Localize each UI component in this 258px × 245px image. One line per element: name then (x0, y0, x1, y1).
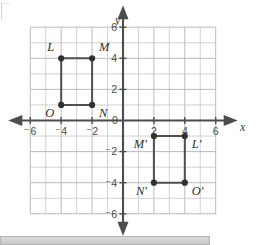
y-tick-label: ⁻6 (105, 208, 117, 220)
x-axis-label: x (239, 120, 246, 134)
vertex-label: M' (133, 137, 147, 151)
x-tick-label: ⁻4 (55, 125, 67, 137)
vertex-point (182, 133, 188, 139)
x-axis-arrow-left (8, 115, 22, 126)
y-axis-label: y (114, 13, 121, 27)
vertex-point (151, 180, 157, 186)
x-tick-label: 6 (213, 125, 219, 137)
vertex-label: L' (191, 137, 202, 151)
vertex-point (89, 102, 95, 108)
y-tick-label: ⁻4 (105, 177, 117, 189)
vertex-label: O (45, 106, 54, 120)
coordinate-plane-figure: ⁻6⁻4⁻2246642⁻2⁻4⁻6 LMNOM'L'O'N' x y 0 (0, 0, 258, 245)
coordinate-plane-svg: ⁻6⁻4⁻2246642⁻2⁻4⁻6 LMNOM'L'O'N' x y 0 (0, 0, 258, 245)
vertex-label: L (46, 40, 54, 54)
y-tick-label: ⁻2 (105, 145, 117, 157)
axes-layer (8, 5, 237, 236)
y-tick-label: 4 (111, 52, 117, 64)
vertex-label: M (98, 40, 110, 54)
y-axis-arrow-down (118, 222, 129, 236)
vertex-point (182, 180, 188, 186)
bottom-gray-bar (0, 236, 210, 245)
point-labels-layer: LMNOM'L'O'N' (45, 40, 204, 197)
vertex-point (58, 55, 64, 61)
origin-label: 0 (112, 114, 118, 126)
vertex-point (89, 55, 95, 61)
vertex-point (58, 102, 64, 108)
page-corner-artifact (1, 3, 9, 20)
x-tick-label: ⁻2 (86, 125, 98, 137)
vertex-label: N' (135, 184, 147, 198)
x-tick-label: ⁻6 (24, 125, 36, 137)
x-axis-arrow-right (224, 115, 238, 126)
y-tick-label: 2 (111, 83, 117, 95)
vertex-point (151, 133, 157, 139)
vertex-label: N (98, 106, 108, 120)
vertex-label: O' (192, 184, 204, 198)
